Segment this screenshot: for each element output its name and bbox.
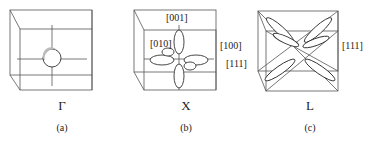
- caption-b: (b): [124, 122, 248, 133]
- caption-c: (c): [248, 122, 372, 133]
- label-010: [010]: [150, 38, 172, 49]
- label-001: [001]: [166, 12, 188, 23]
- caption-a: (a): [0, 122, 124, 133]
- symbol-l: L: [248, 98, 372, 114]
- panel-l: [111] [111] L (c): [248, 0, 372, 142]
- label-100: [100]: [220, 40, 242, 51]
- panel-gamma: Γ (a): [0, 0, 124, 142]
- gamma-cube-diagram: [0, 0, 124, 100]
- panel-x: [001] [010] [100] X (b): [124, 0, 248, 142]
- label-111-right: [111]: [342, 40, 363, 51]
- symbol-gamma: Γ: [0, 98, 124, 114]
- label-111-left: [111]: [226, 58, 247, 69]
- symbol-x: X: [124, 98, 248, 114]
